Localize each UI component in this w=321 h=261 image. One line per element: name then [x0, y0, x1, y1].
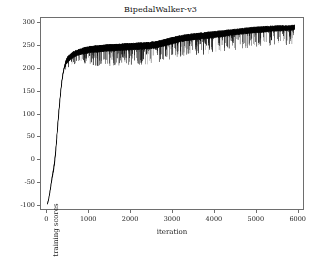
y-tick-label: 100 [1, 110, 35, 118]
y-tick-label: 300 [1, 18, 35, 26]
x-tick-mark [256, 210, 257, 213]
y-tick-label: 50 [1, 132, 35, 140]
y-axis-label: training scores [52, 188, 60, 261]
x-tick-mark [298, 210, 299, 213]
x-tick-label: 1000 [68, 215, 108, 223]
x-tick-label: 6000 [278, 215, 318, 223]
x-tick-mark [130, 210, 131, 213]
x-tick-label: 3000 [152, 215, 192, 223]
x-tick-mark [46, 210, 47, 213]
y-tick-label: 0 [1, 155, 35, 163]
y-tick-label: 150 [1, 87, 35, 95]
x-tick-label: 2000 [110, 215, 150, 223]
x-tick-label: 5000 [236, 215, 276, 223]
chart-title: BipedalWalker-v3 [0, 5, 321, 14]
x-tick-mark [172, 210, 173, 213]
y-tick-label: -100 [1, 201, 35, 209]
x-tick-mark [88, 210, 89, 213]
x-tick-label: 0 [26, 215, 66, 223]
x-tick-label: 4000 [194, 215, 234, 223]
x-axis-label: iteration [40, 228, 304, 236]
y-tick-label: 250 [1, 41, 35, 49]
y-tick-label: -50 [1, 178, 35, 186]
plot-area [40, 17, 304, 210]
training-scores-series [41, 18, 303, 209]
x-tick-mark [214, 210, 215, 213]
y-tick-label: 200 [1, 64, 35, 72]
